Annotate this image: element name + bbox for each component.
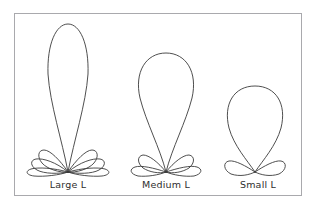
main-lobe-small-l xyxy=(227,86,282,172)
main-lobe-large-l xyxy=(48,24,88,172)
main-lobe-medium-l xyxy=(138,53,193,172)
side-lobe-small-right-1 xyxy=(255,161,285,176)
side-lobe-large-right-2 xyxy=(68,159,104,173)
pattern-small-l xyxy=(225,86,286,175)
pattern-large-l xyxy=(27,24,109,176)
side-lobe-small-left-1 xyxy=(225,161,255,176)
side-lobe-medium-right-2 xyxy=(166,166,201,176)
pattern-label-large-l: Large L xyxy=(28,179,108,190)
pattern-label-medium-l: Medium L xyxy=(124,179,208,190)
side-lobe-large-left-2 xyxy=(32,159,68,173)
pattern-label-small-l: Small L xyxy=(219,179,297,190)
pattern-medium-l xyxy=(131,53,201,176)
side-lobe-medium-left-2 xyxy=(131,166,166,176)
figure-root: Large L Medium L Small L xyxy=(0,0,316,210)
